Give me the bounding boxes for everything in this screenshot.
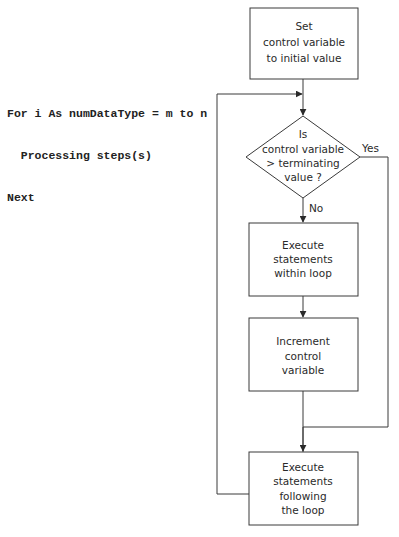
node-condition-line-1: Is [299,128,308,140]
node-increment-line-2: control [285,350,321,362]
node-body-line-2: statements [273,253,333,265]
node-increment-line-3: variable [282,364,324,376]
node-execute-within-loop: Execute statements within loop [249,223,358,296]
edge-label-yes: Yes [361,142,379,154]
node-init-line-3: to initial value [267,52,342,64]
node-increment-control-variable: Increment control variable [249,318,358,391]
node-after-line-3: following [279,490,326,502]
node-init-line-2: control variable [263,36,345,48]
node-body-line-1: Execute [282,239,324,251]
node-init-line-1: Set [295,20,312,32]
node-condition-line-4: value ? [284,171,322,183]
flowchart: Set control variable to initial value Is… [0,0,399,537]
edge-label-no: No [309,202,323,214]
node-after-line-4: the loop [282,504,325,516]
node-condition-diamond: Is control variable > terminating value … [246,116,360,198]
node-execute-following-loop: Execute statements following the loop [249,452,358,525]
node-condition-line-3: > terminating [266,157,339,169]
node-set-initial-value: Set control variable to initial value [250,8,358,79]
node-increment-line-1: Increment [276,335,330,347]
node-after-line-2: statements [273,475,333,487]
node-condition-line-2: control variable [262,143,344,155]
node-after-line-1: Execute [282,461,324,473]
node-body-line-3: within loop [274,267,332,279]
